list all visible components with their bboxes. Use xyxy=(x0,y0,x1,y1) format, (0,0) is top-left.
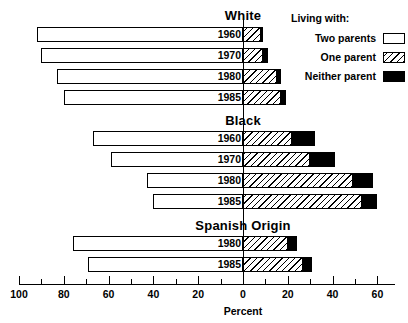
group-title-white: White xyxy=(225,8,261,23)
bar-row: 1985 xyxy=(0,90,408,105)
bar-row: 1985 xyxy=(0,194,408,209)
x-axis-tick-label: 40 xyxy=(327,288,339,300)
x-axis-major-tick xyxy=(198,276,199,284)
x-axis-minor-tick xyxy=(86,279,87,284)
bar-segment-neither-parent xyxy=(303,257,312,272)
bar-segment-neither-parent xyxy=(261,27,263,42)
x-axis-major-tick xyxy=(153,276,154,284)
bar-segment-one-parent xyxy=(243,131,292,146)
open-swatch xyxy=(383,33,405,44)
x-axis-major-tick xyxy=(288,276,289,284)
legend-entry-label: Two parents xyxy=(315,32,376,44)
bar-segment-one-parent xyxy=(243,90,281,105)
legend-entry-label: Neither parent xyxy=(305,70,376,82)
bar-year-label: 1980 xyxy=(201,174,244,187)
bar-year-label: 1980 xyxy=(201,70,244,83)
x-axis-tick-label: 60 xyxy=(372,288,384,300)
x-axis-minor-tick xyxy=(355,279,356,284)
bar-year-label: 1960 xyxy=(201,28,244,41)
x-axis-major-tick xyxy=(109,276,110,284)
group-title-spanish-origin: Spanish Origin xyxy=(195,218,290,233)
legend-title: Living with: xyxy=(277,12,405,24)
x-axis-minor-tick xyxy=(265,279,266,284)
x-axis-minor-tick xyxy=(221,279,222,284)
bar-segment-neither-parent xyxy=(288,236,297,251)
bar-segment-one-parent xyxy=(243,173,353,188)
bar-year-label: 1985 xyxy=(201,195,244,208)
bar-segment-one-parent xyxy=(243,27,261,42)
bar-row: 1980 xyxy=(0,173,408,188)
x-axis-tick-label: 20 xyxy=(192,288,204,300)
bar-year-label: 1980 xyxy=(201,237,244,250)
x-axis-major-tick xyxy=(64,276,65,284)
bar-segment-one-parent xyxy=(243,69,277,84)
legend-entry-label: One parent xyxy=(321,51,376,63)
x-axis-tick-label: 20 xyxy=(282,288,294,300)
bar-segment-neither-parent xyxy=(292,131,314,146)
x-axis-tick-label: 100 xyxy=(10,288,28,300)
bar-segment-neither-parent xyxy=(310,152,335,167)
hatched-swatch xyxy=(383,52,405,63)
x-axis-tick-label: 40 xyxy=(148,288,160,300)
bar-segment-neither-parent xyxy=(353,173,373,188)
black-swatch xyxy=(383,71,405,82)
bar-segment-one-parent xyxy=(243,152,310,167)
bar-row: 1985 xyxy=(0,257,408,272)
bar-year-label: 1985 xyxy=(201,258,244,271)
bar-year-label: 1970 xyxy=(201,153,244,166)
bar-segment-neither-parent xyxy=(263,48,267,63)
bar-segment-one-parent xyxy=(243,48,263,63)
x-axis-minor-tick xyxy=(41,279,42,284)
bar-segment-neither-parent xyxy=(362,194,378,209)
bar-row: 1980 xyxy=(0,236,408,251)
bar-year-label: 1960 xyxy=(201,132,244,145)
x-axis-tick-label: 0 xyxy=(240,288,246,300)
x-axis-minor-tick xyxy=(310,279,311,284)
x-axis-line xyxy=(19,284,395,285)
group-title-black: Black xyxy=(225,113,261,128)
bar-segment-one-parent xyxy=(243,257,303,272)
x-axis-major-tick xyxy=(377,276,378,284)
bar-segment-one-parent xyxy=(243,194,362,209)
bar-row: 1970 xyxy=(0,152,408,167)
x-axis-title: Percent xyxy=(224,305,263,317)
legend-entry: One parent xyxy=(277,51,405,63)
stacked-bar-chart: White1960197019801985Black19601970198019… xyxy=(0,0,408,323)
legend-entry: Two parents xyxy=(277,32,405,44)
legend: Living with: Two parentsOne parentNeithe… xyxy=(277,12,405,89)
bar-segment-neither-parent xyxy=(281,90,285,105)
x-axis-tick-label: 80 xyxy=(58,288,70,300)
x-axis-major-tick xyxy=(333,276,334,284)
bar-year-label: 1985 xyxy=(201,91,244,104)
legend-entries: Two parentsOne parentNeither parent xyxy=(277,32,405,82)
x-axis-major-tick xyxy=(243,276,244,284)
bar-segment-one-parent xyxy=(243,236,288,251)
legend-entry: Neither parent xyxy=(277,70,405,82)
x-axis-minor-tick xyxy=(131,279,132,284)
x-axis-major-tick xyxy=(19,276,20,284)
x-axis-minor-tick xyxy=(176,279,177,284)
x-axis-tick-label: 60 xyxy=(103,288,115,300)
bar-year-label: 1970 xyxy=(201,49,244,62)
bar-row: 1960 xyxy=(0,131,408,146)
